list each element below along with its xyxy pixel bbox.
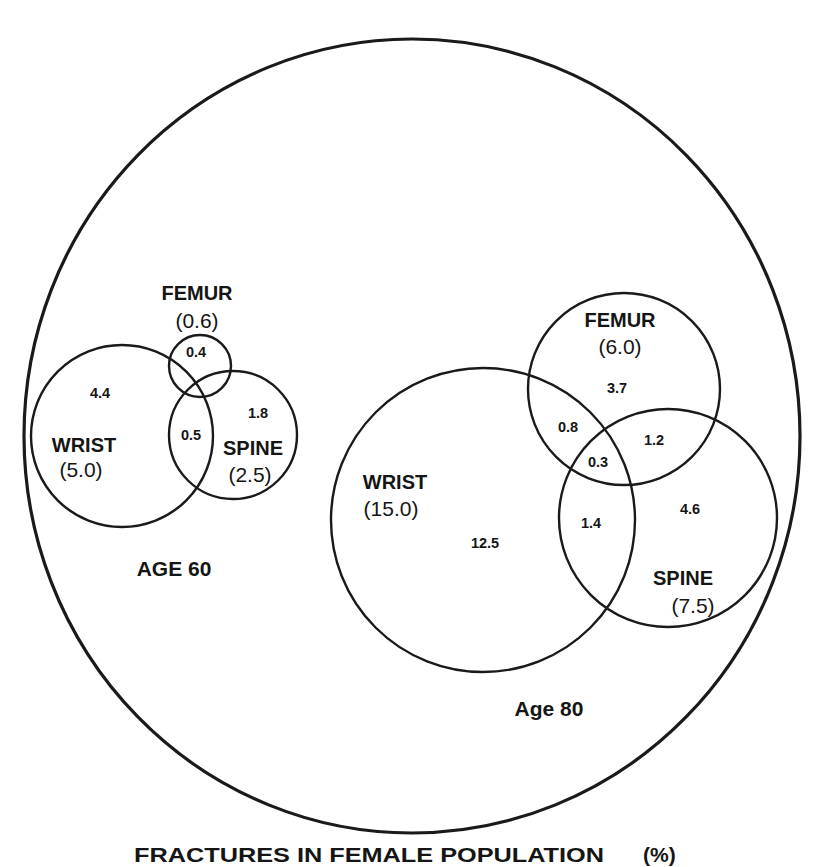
age60-femur-label: FEMUR [161,282,233,304]
age60-spine-total: (2.5) [228,463,271,486]
age80-spine-total: (7.5) [671,594,714,617]
age80-triple-overlap-value: 0.3 [588,454,608,470]
age80-femur-only-value: 3.7 [607,380,627,396]
age80-femur-total: (6.0) [598,335,641,358]
age80-wrist-label: WRIST [363,471,427,493]
age-60-venn-group: FEMUR (0.6) 0.4 4.4 WRIST (5.0) 0.5 1.8 … [31,282,297,580]
female-population-outer-circle [24,39,800,833]
age60-wrist-total: (5.0) [59,458,102,481]
age60-wrist-only-value: 4.4 [90,385,110,401]
age80-femur-spine-overlap-value: 1.2 [644,432,664,448]
age80-femur-label: FEMUR [584,309,656,331]
age80-wrist-femur-overlap-value: 0.8 [558,419,578,435]
age-80-venn-group: FEMUR (6.0) 3.7 0.8 1.2 0.3 1.4 WRIST (1… [331,293,777,720]
age80-wrist-spine-overlap-value: 1.4 [581,515,601,531]
figure-caption-unit: (%) [643,843,676,866]
age60-wrist-label: WRIST [52,434,116,456]
age80-spine-label: SPINE [653,567,713,589]
venn-diagram-figure: FEMUR (0.6) 0.4 4.4 WRIST (5.0) 0.5 1.8 … [0,0,815,867]
figure-caption: FRACTURES IN FEMALE POPULATION [134,843,604,866]
age60-spine-label: SPINE [223,437,283,459]
age60-wrist-spine-overlap-value: 0.5 [181,427,201,443]
age80-label: Age 80 [515,697,584,720]
age80-wrist-total: (15.0) [364,497,419,520]
age60-spine-only-value: 1.8 [248,405,268,421]
age80-spine-only-value: 4.6 [680,501,700,517]
age60-femur-total: (0.6) [175,309,218,332]
age60-label: AGE 60 [137,557,212,580]
age60-femur-only-value: 0.4 [186,344,206,360]
age80-wrist-only-value: 12.5 [471,535,499,551]
